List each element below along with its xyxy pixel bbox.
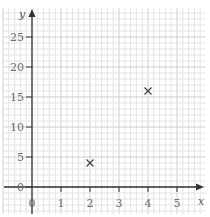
x-tick-label: 4 [145, 197, 152, 210]
y-tick-label: 10 [10, 121, 24, 134]
grid [3, 8, 206, 214]
y-tick-label: 0 [17, 181, 24, 194]
axes [4, 9, 204, 214]
x-tick-label: 1 [58, 197, 65, 210]
y-tick-label: 20 [10, 61, 24, 74]
x-tick-label: 2 [87, 197, 94, 210]
y-tick-label: 15 [10, 91, 24, 104]
y-tick-label: 25 [10, 31, 24, 44]
scatter-chart: 0123450510152025xy [0, 0, 210, 217]
x-tick-label: 5 [174, 197, 181, 210]
x-axis-label: x [198, 195, 205, 208]
x-tick-label: 0 [29, 197, 36, 210]
y-tick-label: 5 [17, 151, 24, 164]
y-axis-label: y [18, 8, 26, 21]
x-tick-label: 3 [116, 197, 123, 210]
